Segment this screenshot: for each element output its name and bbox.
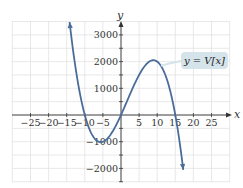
y-tick-label: 1000 xyxy=(94,83,118,94)
x-axis-label: x xyxy=(234,108,241,121)
x-tick-label: 25 xyxy=(205,117,217,128)
x-tick-label: −15 xyxy=(57,117,77,128)
x-tick-label: 10 xyxy=(151,117,163,128)
x-tick-label: −25 xyxy=(20,117,40,128)
x-axis-arrow-icon xyxy=(226,113,232,118)
curve-line xyxy=(70,22,184,170)
y-tick-label: 3000 xyxy=(94,29,118,40)
y-axis-label: y xyxy=(116,9,124,22)
curve-v-of-x xyxy=(68,22,185,170)
function-label-text: y = V[x] xyxy=(184,55,225,66)
function-graph: −25−20−15−10−5510152025300020001000−1000… xyxy=(0,0,243,188)
function-label: y = V[x] xyxy=(181,52,228,69)
x-tick-label: 20 xyxy=(187,117,199,128)
x-tick-label: 5 xyxy=(136,117,142,128)
x-tick-label: −5 xyxy=(96,117,110,128)
y-tick-label: 2000 xyxy=(94,56,118,67)
x-tick-label: −20 xyxy=(39,117,59,128)
x-tick-label: −10 xyxy=(75,117,95,128)
y-tick-label: −2000 xyxy=(86,163,118,174)
